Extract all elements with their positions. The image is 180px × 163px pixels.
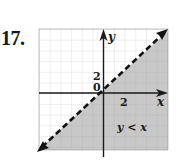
- inequality-label: y < x: [116, 121, 147, 134]
- x-axis-label: x: [156, 95, 165, 109]
- y-axis-label: y: [107, 30, 116, 44]
- x-tick-label: 2: [120, 96, 128, 109]
- origin-label: 0: [93, 81, 101, 94]
- inequality-graph: y x 2 0 2 y < x: [0, 0, 180, 163]
